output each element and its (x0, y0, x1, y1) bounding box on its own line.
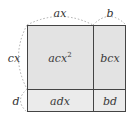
side-brace-d (21, 89, 28, 112)
cell-label-bcx: bcx (100, 53, 119, 64)
cell-label-acx2-base: acx (48, 52, 67, 65)
label-d: d (12, 96, 19, 107)
cell-label-acx2-exponent: 2 (67, 51, 71, 59)
cell-label-acx2: acx2 (48, 52, 71, 64)
label-b: b (106, 8, 113, 19)
cell-label-adx: adx (50, 96, 70, 107)
label-ax: ax (54, 8, 67, 19)
cell-label-bd: bd (103, 96, 117, 107)
area-model-diagram: ax b cx d acx2 bcx adx bd (0, 0, 137, 121)
label-cx: cx (8, 53, 20, 64)
